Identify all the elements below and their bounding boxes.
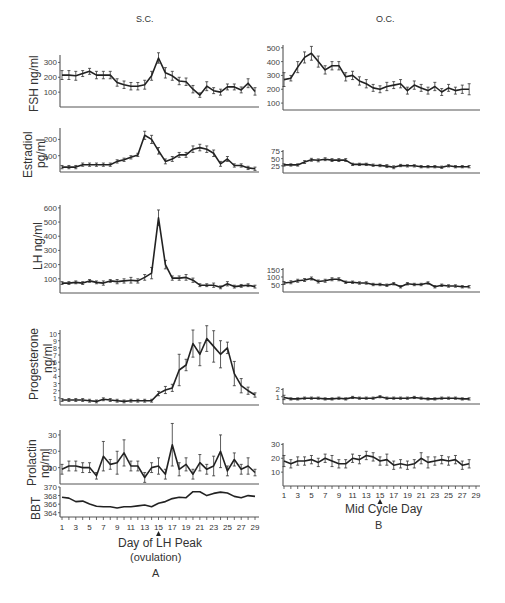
svg-text:20: 20 xyxy=(271,454,280,463)
x-axis-label-a: Day of LH Peak xyxy=(118,536,202,550)
panel-a: 1002003001002001002003004005006001234567… xyxy=(44,53,260,536)
svg-text:364: 364 xyxy=(44,509,58,518)
svg-text:500: 500 xyxy=(267,44,281,53)
svg-text:25: 25 xyxy=(223,523,232,532)
svg-text:200: 200 xyxy=(44,73,58,82)
svg-text:15: 15 xyxy=(154,523,163,532)
lh-ylabel: LH ng/ml xyxy=(32,222,44,270)
svg-text:29: 29 xyxy=(251,523,260,532)
panel-b: 1002003004005002550755010015012102030135… xyxy=(267,44,481,504)
svg-text:1: 1 xyxy=(282,491,287,500)
panel-a-letter: A xyxy=(152,567,159,579)
svg-text:4: 4 xyxy=(53,373,57,380)
svg-text:100: 100 xyxy=(267,99,281,108)
svg-text:23: 23 xyxy=(209,523,218,532)
svg-text:10: 10 xyxy=(271,468,280,477)
series-lh: 50100150 xyxy=(267,266,480,293)
svg-text:9: 9 xyxy=(337,491,342,500)
hormone-figure: 1002003001002001002003004005006001234567… xyxy=(0,0,505,603)
svg-text:15: 15 xyxy=(376,491,385,500)
series-estradiol: 100200 xyxy=(44,128,259,172)
svg-text:30: 30 xyxy=(48,431,57,440)
x-axis-label-a-sub: (ovulation) xyxy=(130,551,181,563)
progesterone-ylabel-2: ng/ml xyxy=(42,344,54,373)
svg-text:2: 2 xyxy=(53,388,57,395)
fsh-ylabel: FSH ng/ml xyxy=(28,55,40,112)
svg-text:400: 400 xyxy=(44,232,58,241)
svg-text:3: 3 xyxy=(74,523,79,532)
progesterone-ylabel-1: Progesterone xyxy=(28,328,40,400)
svg-text:13: 13 xyxy=(362,491,371,500)
svg-text:27: 27 xyxy=(458,491,467,500)
series-progesterone: 12345678910 xyxy=(49,326,259,405)
svg-text:29: 29 xyxy=(472,491,481,500)
svg-text:200: 200 xyxy=(44,261,58,270)
svg-text:75: 75 xyxy=(271,147,280,156)
svg-text:3: 3 xyxy=(53,381,57,388)
svg-text:600: 600 xyxy=(44,204,58,213)
svg-text:500: 500 xyxy=(44,218,58,227)
series-fsh: 100200300400500 xyxy=(267,44,480,110)
svg-text:150: 150 xyxy=(267,266,281,275)
svg-text:368: 368 xyxy=(44,492,58,501)
svg-text:400: 400 xyxy=(267,58,281,67)
x-axis-label-b: Mid Cycle Day xyxy=(345,502,422,516)
series-fsh: 100200300 xyxy=(44,53,259,107)
svg-text:27: 27 xyxy=(237,523,246,532)
svg-text:23: 23 xyxy=(430,491,439,500)
estradiol-ylabel-2: pg/ml xyxy=(35,139,47,168)
svg-text:11: 11 xyxy=(127,523,136,532)
svg-text:10: 10 xyxy=(49,331,57,338)
svg-text:9: 9 xyxy=(115,523,120,532)
svg-text:100: 100 xyxy=(44,275,58,284)
svg-text:366: 366 xyxy=(44,500,58,509)
svg-text:21: 21 xyxy=(195,523,204,532)
svg-text:19: 19 xyxy=(403,491,412,500)
svg-text:1: 1 xyxy=(53,395,57,402)
svg-text:30: 30 xyxy=(271,440,280,449)
svg-text:7: 7 xyxy=(101,523,106,532)
estradiol-ylabel-1: Estradiol xyxy=(22,131,34,178)
svg-text:11: 11 xyxy=(348,491,357,500)
svg-text:370: 370 xyxy=(44,483,58,492)
series-lh: 100200300400500600 xyxy=(44,204,259,293)
svg-text:300: 300 xyxy=(267,71,281,80)
svg-text:5: 5 xyxy=(87,523,92,532)
svg-text:3: 3 xyxy=(295,491,300,500)
svg-text:7: 7 xyxy=(323,491,328,500)
svg-text:1: 1 xyxy=(60,523,65,532)
svg-text:100: 100 xyxy=(44,88,58,97)
svg-text:300: 300 xyxy=(44,246,58,255)
svg-text:17: 17 xyxy=(168,523,177,532)
svg-text:200: 200 xyxy=(267,85,281,94)
svg-text:13: 13 xyxy=(140,523,149,532)
panel-b-title: O.C. xyxy=(376,14,395,24)
svg-text:17: 17 xyxy=(389,491,398,500)
prolactin-ylabel-1: Prolactin xyxy=(26,439,38,486)
svg-text:2: 2 xyxy=(276,385,281,394)
series-progesterone: 12 xyxy=(276,385,480,404)
series-estradiol: 255075 xyxy=(271,147,480,173)
bbt-ylabel: BBT xyxy=(30,497,42,520)
panel-b-letter: B xyxy=(375,519,382,531)
svg-text:300: 300 xyxy=(44,58,58,67)
panel-a-title: S.C. xyxy=(136,14,154,24)
svg-text:21: 21 xyxy=(417,491,426,500)
svg-text:19: 19 xyxy=(182,523,191,532)
prolactin-ylabel-2: ng/ml xyxy=(39,449,51,478)
series-prolactin: 102030 xyxy=(48,423,259,484)
series-prolactin: 102030 xyxy=(271,440,480,486)
svg-text:25: 25 xyxy=(444,491,453,500)
svg-text:5: 5 xyxy=(309,491,314,500)
series-bbt: 364366368370 xyxy=(44,483,259,518)
